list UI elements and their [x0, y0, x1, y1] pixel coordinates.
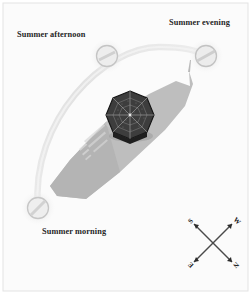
- diagram-canvas: [0, 0, 251, 294]
- sun-marker-summer-evening: [189, 39, 223, 73]
- sun-marker-summer-morning: [21, 191, 55, 225]
- label-summer-evening: Summer evening: [169, 19, 230, 27]
- label-summer-morning: Summer morning: [42, 228, 106, 236]
- sun-marker-summer-afternoon: [90, 39, 124, 73]
- sun-path-diagram: Summer afternoon Summer evening Summer m…: [0, 0, 251, 294]
- geodesic-dome: [106, 91, 154, 144]
- label-summer-afternoon: Summer afternoon: [17, 31, 86, 39]
